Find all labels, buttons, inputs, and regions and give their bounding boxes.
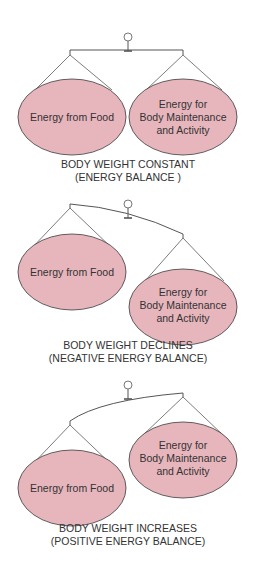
scale-beam [70,204,183,238]
right-pan-label-line3: and Activity [156,124,210,136]
left-pan-label: Energy from Food [30,111,114,123]
right-pan-label-line1: Energy for [159,286,208,298]
scale-hanger-ring [124,381,132,389]
scale-beam [70,393,183,425]
scale-hanger-ring [124,200,132,208]
right-pan-label-line1: Energy for [159,98,208,110]
left-pan-label: Energy from Food [30,482,114,494]
caption-line1: BODY WEIGHT DECLINES [63,339,193,351]
left-pan-label: Energy from Food [30,266,114,278]
caption-line2: (ENERGY BALANCE ) [75,171,181,183]
scale-hanger-ring [124,33,132,41]
right-pan-label-line3: and Activity [156,465,210,477]
right-pan-label-line2: Body Maintenance [140,299,227,311]
caption-line2: (POSITIVE ENERGY BALANCE) [51,535,205,547]
caption-line2: (NEGATIVE ENERGY BALANCE) [49,352,207,364]
energy-balance-diagram: Energy from Food Energy for Body Mainten… [0,0,257,561]
scale-balanced: Energy from Food Energy for Body Mainten… [18,33,237,183]
right-pan-label-line2: Body Maintenance [140,111,227,123]
caption-line1: BODY WEIGHT CONSTANT [61,158,196,170]
right-pan-label-line3: and Activity [156,312,210,324]
scale-positive-balance: Energy from Food Energy for Body Mainten… [18,381,237,547]
scale-negative-balance: Energy from Food Energy for Body Mainten… [18,200,237,364]
right-pan-label-line1: Energy for [159,439,208,451]
caption-line1: BODY WEIGHT INCREASES [59,522,197,534]
right-pan-label-line2: Body Maintenance [140,452,227,464]
